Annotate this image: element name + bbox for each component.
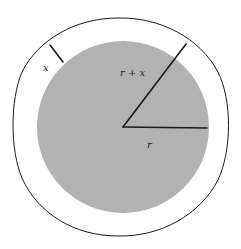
radius-r-line	[123, 127, 207, 128]
label-r-plus-x: r + x	[120, 67, 146, 78]
label-x: x	[43, 62, 49, 73]
concentric-circles-diagram: x r + x r	[0, 0, 241, 249]
